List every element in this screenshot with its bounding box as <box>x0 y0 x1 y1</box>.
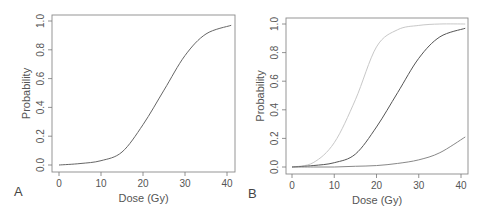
y-tick-label: 0.4 <box>269 102 280 116</box>
y-axis-title: Probability <box>20 67 32 119</box>
y-tick-label: 0.4 <box>35 100 46 114</box>
x-axis: 010203040 <box>289 174 467 191</box>
y-tick-label: 0.0 <box>269 160 280 174</box>
x-axis-title: Dose (Gy) <box>118 192 168 204</box>
y-tick-label: 0.6 <box>269 74 280 88</box>
x-axis-title: Dose (Gy) <box>352 194 402 206</box>
x-tick-label: 40 <box>455 180 467 191</box>
plot-frame <box>52 15 235 172</box>
series-line-light-curve <box>292 24 465 167</box>
chart-panel-b: 010203040Dose (Gy)0.00.20.40.60.81.0Prob… <box>248 17 468 206</box>
y-tick-label: 0.2 <box>269 131 280 145</box>
y-axis: 0.00.20.40.60.81.0 <box>269 17 286 174</box>
chart-panel-a: 010203040Dose (Gy)0.00.20.40.60.81.0Prob… <box>14 14 235 204</box>
x-tick-label: 20 <box>371 180 383 191</box>
y-axis-title: Probability <box>254 70 266 122</box>
x-tick-label: 40 <box>221 178 233 189</box>
x-tick-label: 0 <box>56 178 62 189</box>
figure: 010203040Dose (Gy)0.00.20.40.60.81.0Prob… <box>0 0 485 219</box>
y-tick-label: 0.8 <box>269 45 280 59</box>
y-tick-label: 0.6 <box>35 71 46 85</box>
x-tick-label: 10 <box>329 180 341 191</box>
y-axis: 0.00.20.40.60.81.0 <box>35 14 52 172</box>
x-tick-label: 0 <box>289 180 295 191</box>
x-axis: 010203040 <box>56 172 233 189</box>
y-tick-label: 0.0 <box>35 158 46 172</box>
series-group <box>292 24 465 167</box>
y-tick-label: 1.0 <box>35 14 46 28</box>
panel-label: B <box>248 186 257 201</box>
y-tick-label: 0.8 <box>35 42 46 56</box>
panel-label: A <box>14 184 23 199</box>
series-line-low-curve <box>292 137 465 167</box>
x-tick-label: 30 <box>413 180 425 191</box>
x-tick-label: 30 <box>179 178 191 189</box>
x-tick-label: 10 <box>95 178 107 189</box>
series-line-dose-response <box>59 25 231 165</box>
x-tick-label: 20 <box>137 178 149 189</box>
y-tick-label: 1.0 <box>269 17 280 31</box>
y-tick-label: 0.2 <box>35 129 46 143</box>
plot-frame <box>286 18 468 174</box>
series-group <box>59 25 231 165</box>
series-line-middle-curve <box>292 28 465 167</box>
